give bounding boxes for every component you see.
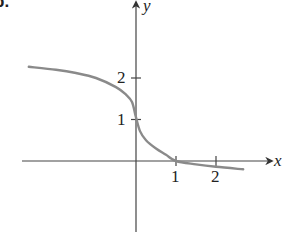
y-axis-label: y xyxy=(143,0,151,14)
y-tick-label: 2 xyxy=(117,69,126,86)
y-tick-label: 1 xyxy=(117,111,126,128)
x-tick-label: 2 xyxy=(211,168,220,185)
x-axis-label: x xyxy=(274,152,282,169)
panel-label: b. xyxy=(0,0,9,12)
axis-ticks xyxy=(131,78,216,166)
x-tick-label: 1 xyxy=(171,168,180,185)
function-graph xyxy=(0,0,282,235)
